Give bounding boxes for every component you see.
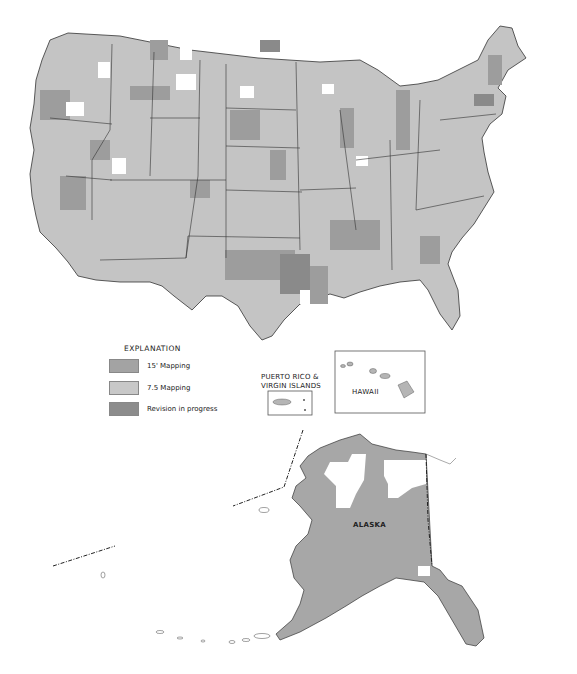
legend-item-15-mapping: 15' Mapping <box>109 359 190 373</box>
puerto-rico-label-line2: VIRGIN ISLANDS <box>261 382 321 391</box>
conterminous-us <box>30 26 526 340</box>
legend-item-revision: Revision in progress <box>109 402 217 416</box>
legend-item-7-5-mapping: 7.5 Mapping <box>109 381 190 395</box>
alaska <box>53 430 484 646</box>
legend-title: EXPLANATION <box>124 344 181 353</box>
legend-label: 7.5 Mapping <box>147 384 190 392</box>
hawaii-inset <box>335 351 425 413</box>
hawaii-label: HAWAII <box>352 388 379 396</box>
legend-swatch <box>109 402 139 416</box>
alaska-label: ALASKA <box>353 521 386 529</box>
puerto-rico-label-line1: PUERTO RICO & <box>261 373 321 382</box>
puerto-rico-inset <box>268 391 312 415</box>
legend-swatch <box>109 359 139 373</box>
legend-label: 15' Mapping <box>147 362 190 370</box>
legend-swatch <box>109 381 139 395</box>
puerto-rico-label: PUERTO RICO & VIRGIN ISLANDS <box>261 373 321 391</box>
legend-label: Revision in progress <box>147 405 217 413</box>
map-canvas <box>0 0 577 674</box>
